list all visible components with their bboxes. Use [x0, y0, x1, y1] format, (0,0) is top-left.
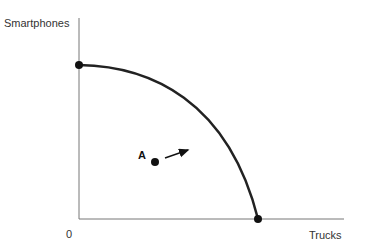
ppf-curve — [79, 65, 258, 219]
x-axis-label: Trucks — [309, 229, 342, 241]
arrow-icon — [165, 150, 188, 158]
y-axis-label: Smartphones — [4, 17, 69, 29]
y-intercept-point — [75, 61, 83, 69]
ppf-chart — [0, 0, 369, 248]
x-intercept-point — [254, 215, 262, 223]
origin-label: 0 — [66, 228, 72, 240]
point-a-label: A — [138, 149, 146, 161]
point-a — [151, 158, 159, 166]
